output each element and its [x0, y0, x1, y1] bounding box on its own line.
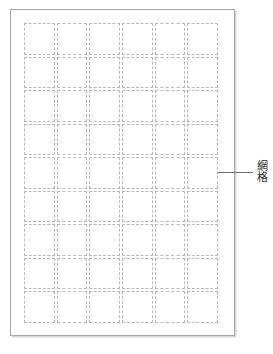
grid-cell [155, 23, 186, 55]
grid-cell [89, 191, 120, 223]
grid-cell [155, 191, 186, 223]
grid-cell [122, 90, 153, 122]
grid-cell [57, 224, 88, 256]
grid-cell [122, 157, 153, 189]
grid-cell [187, 258, 218, 290]
grid-cell [122, 124, 153, 156]
grid-cell [24, 23, 55, 55]
grid-cell [57, 124, 88, 156]
grid-cell [24, 57, 55, 89]
grid-cell [89, 157, 120, 189]
grid-cell [155, 291, 186, 323]
grid-cell [89, 23, 120, 55]
grid-cell [57, 90, 88, 122]
grid-cell [122, 57, 153, 89]
screenshot-root: 網格 [0, 0, 273, 354]
grid-cell [24, 258, 55, 290]
grid-cell [187, 224, 218, 256]
grid-cell [122, 291, 153, 323]
grid-cell [155, 157, 186, 189]
grid-cell [155, 124, 186, 156]
callout-label-grid: 網格 [253, 160, 267, 182]
grid-cell [24, 157, 55, 189]
grid-cell [57, 57, 88, 89]
grid-cell [155, 258, 186, 290]
grid-cell [89, 224, 120, 256]
grid-cell [89, 90, 120, 122]
grid-cell [24, 90, 55, 122]
grid-cell [57, 23, 88, 55]
grid-cell [122, 258, 153, 290]
grid-cell [122, 224, 153, 256]
grid-cell [155, 90, 186, 122]
grid-cell [89, 258, 120, 290]
grid-cell [187, 23, 218, 55]
grid-cell [187, 157, 218, 189]
grid-cell [122, 23, 153, 55]
page-sheet [10, 9, 235, 336]
grid-cell [57, 258, 88, 290]
grid-cell [89, 57, 120, 89]
grid-cell [155, 224, 186, 256]
grid-cell [24, 291, 55, 323]
grid-cell [187, 191, 218, 223]
grid-cell [187, 90, 218, 122]
grid-cell [57, 157, 88, 189]
grid-cell [122, 191, 153, 223]
grid-cell [187, 291, 218, 323]
grid-container [23, 22, 219, 324]
grid-cell [24, 124, 55, 156]
grid-cell [24, 224, 55, 256]
grid-cell [24, 191, 55, 223]
grid-cell [187, 124, 218, 156]
grid-cell [89, 124, 120, 156]
callout-leader-line [218, 172, 253, 173]
grid-cell [57, 291, 88, 323]
grid-cell [57, 191, 88, 223]
grid-cell [89, 291, 120, 323]
grid-cell [187, 57, 218, 89]
grid-cell [155, 57, 186, 89]
